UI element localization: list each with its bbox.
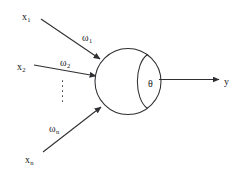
weight-label-w2-subscript: 2 [67,62,70,69]
ellipsis-dot [62,80,64,82]
input-label-x1-subscript: 1 [27,16,30,23]
output-label-base: y [224,76,229,87]
neuron-diagram-graphics [0,0,246,172]
weight-label-w1-subscript: 1 [89,37,92,44]
weight-label-wn: ωn [49,119,59,135]
ellipsis-dot [62,90,64,92]
weight-label-w2: ω2 [60,53,70,69]
weight-label-w1-base: ω [82,32,89,43]
ellipsis-dot [62,100,64,102]
input-label-x1: x1 [22,7,30,23]
weight-label-wn-base: ω [49,123,56,134]
weight-label-w2-base: ω [60,57,67,68]
weight-label-wn-subscript: n [56,128,59,135]
ellipsis-dot [62,95,64,97]
input-label-xn-subscript: n [30,159,33,166]
input-label-x2: x2 [17,57,25,73]
input-label-x2-subscript: 2 [22,66,25,73]
output-label-y: y [224,72,229,88]
ellipsis-dot [62,85,64,87]
weight-label-w1: ω1 [82,28,92,44]
vertical-ellipsis [60,80,65,102]
threshold-label-theta: θ [148,74,153,90]
input-label-xn: xn [25,150,33,166]
threshold-label-base: θ [148,78,153,89]
diagram-canvas: x1 x2 xn ω1 ω2 ωn θ y [0,0,246,172]
